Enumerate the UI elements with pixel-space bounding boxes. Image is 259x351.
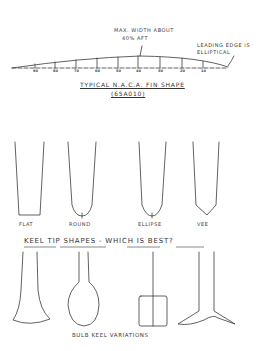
keel-tip-label-ellipse: ELLIPSE bbox=[138, 222, 162, 227]
bulb-keel-teardrop bbox=[68, 252, 99, 326]
keel-tip-vee bbox=[193, 142, 219, 215]
fin-profile-curve bbox=[12, 56, 228, 68]
station-label: 50 bbox=[116, 70, 121, 74]
fin-shape-subtitle: (65A010) bbox=[111, 91, 145, 97]
keel-tip-caption: KEEL TIP SHAPES - WHICH IS BEST? bbox=[24, 238, 174, 245]
bulb-keel-flared bbox=[13, 252, 50, 323]
station-label: 60 bbox=[95, 70, 100, 74]
leading-edge-leader bbox=[228, 56, 234, 66]
leading-edge-annotation-line2: ELLIPTICAL bbox=[197, 50, 230, 55]
bulb-keel-caption: BULB KEEL VARIATIONS bbox=[72, 333, 149, 339]
bulb-keel-winged bbox=[178, 252, 235, 325]
keel-tip-label-round: ROUND bbox=[69, 222, 91, 227]
station-label: 20 bbox=[180, 70, 185, 74]
keel-tip-label-flat: FLAT bbox=[19, 222, 33, 227]
keel-tip-round bbox=[68, 142, 96, 216]
station-label: 80 bbox=[53, 70, 58, 74]
station-label: 30 bbox=[158, 70, 163, 74]
station-label: 90 bbox=[33, 70, 38, 74]
max-width-annotation-line2: 40% AFT bbox=[122, 36, 148, 41]
fin-shape-title: TYPICAL N.A.C.A. FIN SHAPE bbox=[80, 82, 185, 88]
station-label: 40 bbox=[136, 70, 141, 74]
keel-tip-flat bbox=[15, 142, 44, 215]
keel-tip-ellipse bbox=[139, 142, 166, 216]
leading-edge-annotation-line1: LEADING EDGE IS bbox=[197, 43, 250, 48]
station-label: 10 bbox=[201, 70, 206, 74]
max-width-leader bbox=[140, 46, 142, 56]
max-width-annotation-line1: MAX. WIDTH ABOUT bbox=[114, 28, 174, 33]
keel-tip-label-vee: VEE bbox=[197, 222, 209, 227]
station-label: 70 bbox=[74, 70, 79, 74]
